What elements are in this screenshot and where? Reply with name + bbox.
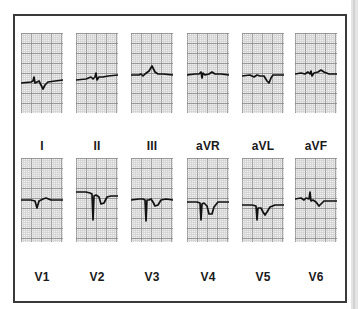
- ecg-panel-v2: [76, 158, 118, 242]
- ecg-trace-graph: [242, 158, 284, 242]
- ecg-panel-avl: [242, 33, 284, 113]
- lead-label-i: I: [14, 139, 70, 153]
- ecg-panel-avf: [295, 33, 337, 113]
- ecg-panel-avr: [187, 33, 229, 113]
- ecg-trace-graph: [21, 158, 63, 242]
- ecg-trace-graph: [295, 33, 337, 113]
- lead-label-v1: V1: [14, 270, 70, 284]
- ecg-panel-v6: [295, 158, 337, 242]
- lead-label-v4: V4: [180, 270, 236, 284]
- ecg-trace-graph: [242, 33, 284, 113]
- lead-label-iii: III: [124, 139, 180, 153]
- ecg-trace-graph: [131, 33, 173, 113]
- lead-label-v6: V6: [288, 270, 344, 284]
- lead-label-avr: aVR: [180, 139, 236, 153]
- ecg-panel-i: [21, 33, 63, 113]
- ecg-trace-graph: [76, 33, 118, 113]
- ecg-panel-v4: [187, 158, 229, 242]
- ecg-trace-graph: [21, 33, 63, 113]
- lead-label-v5: V5: [235, 270, 291, 284]
- ecg-panel-v1: [21, 158, 63, 242]
- lead-label-v3: V3: [124, 270, 180, 284]
- ecg-trace-graph: [76, 158, 118, 242]
- lead-label-v2: V2: [69, 270, 125, 284]
- ecg-panel-v3: [131, 158, 173, 242]
- lead-label-avf: aVF: [288, 139, 344, 153]
- lead-label-ii: II: [69, 139, 125, 153]
- ecg-trace-graph: [131, 158, 173, 242]
- page-scroll-edge-line: [353, 0, 355, 309]
- ecg-trace-graph: [187, 33, 229, 113]
- lead-label-avl: aVL: [235, 139, 291, 153]
- ecg-trace-graph: [295, 158, 337, 242]
- ecg-panel-ii: [76, 33, 118, 113]
- ecg-panel-v5: [242, 158, 284, 242]
- ecg-trace-graph: [187, 158, 229, 242]
- ecg-panel-iii: [131, 33, 173, 113]
